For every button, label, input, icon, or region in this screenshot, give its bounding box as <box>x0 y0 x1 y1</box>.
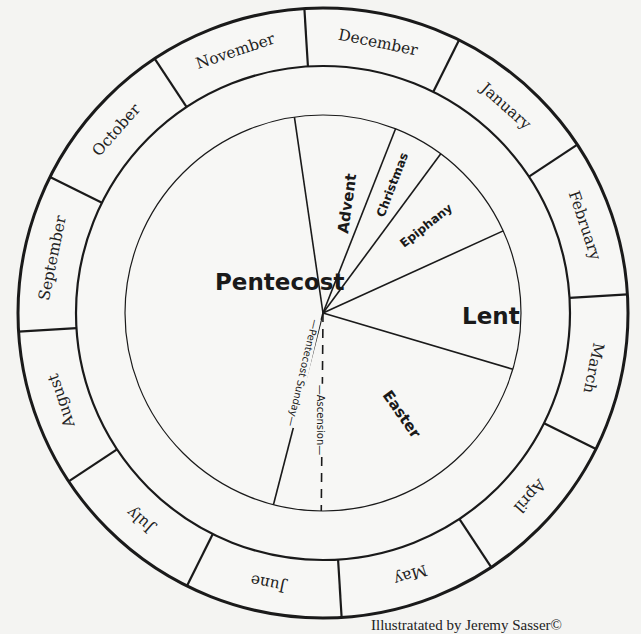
marker-label-ascension: —Ascension— <box>315 385 326 455</box>
season-label-lent: Lent <box>462 303 520 329</box>
illustration-credit: Illustratated by Jeremy Sasser© <box>371 617 562 634</box>
season-label-pentecost: Pentecost <box>215 269 345 295</box>
